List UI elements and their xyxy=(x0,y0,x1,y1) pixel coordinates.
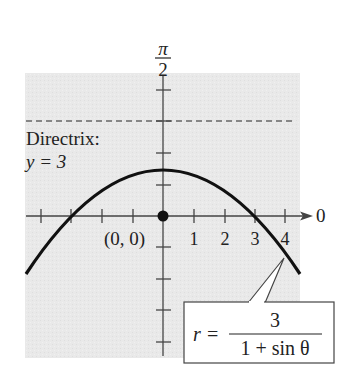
callout-lhs: r = xyxy=(193,323,219,345)
tick-label-3: 3 xyxy=(251,229,260,249)
tick-label-4: 4 xyxy=(281,229,290,249)
angle-label-pi-denominator: 2 xyxy=(158,59,168,80)
directrix-equation: y = 3 xyxy=(24,151,66,172)
tick-label-2: 2 xyxy=(221,229,230,249)
focus-label: (0, 0) xyxy=(104,228,145,250)
focus-point xyxy=(158,211,169,222)
directrix-label: Directrix: xyxy=(26,128,100,149)
callout-denominator: 1 + sin θ xyxy=(240,337,309,359)
tick-label-1: 1 xyxy=(190,229,199,249)
callout-numerator: 3 xyxy=(270,309,280,331)
angle-label-zero: 0 xyxy=(316,205,326,226)
polar-graph: π 2 0 1 2 3 4 (0, 0) Directrix: y = 3 r … xyxy=(0,0,357,387)
angle-label-pi-numerator: π xyxy=(158,38,168,59)
